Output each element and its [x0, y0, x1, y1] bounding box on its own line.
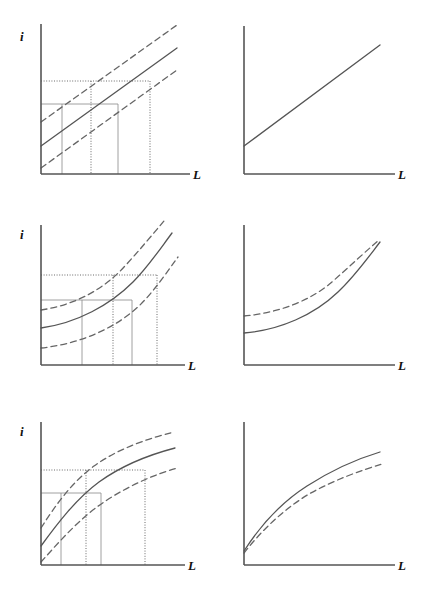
- series-lower-middle-left: [41, 257, 178, 348]
- panel-top-left: i L: [0, 0, 212, 197]
- y-axis-label-top-left: i: [20, 29, 24, 44]
- figure-panel-grid: i L L: [0, 0, 424, 590]
- axes-bottom-left: [41, 422, 185, 565]
- x-axis-label-bottom-left: L: [187, 558, 196, 573]
- x-axis-label-middle-right: L: [397, 358, 406, 373]
- guide-lines-top-left: [41, 81, 150, 174]
- axes-bottom-right: [244, 422, 395, 565]
- series-central-top-right: [244, 45, 380, 146]
- axes-top-left: [41, 24, 190, 174]
- x-axis-label-middle-left: L: [187, 358, 196, 373]
- panel-bottom-left: i L: [0, 394, 212, 590]
- panel-top-right: L: [212, 0, 424, 197]
- panel-middle-right: L: [212, 197, 424, 394]
- series-solid-bottom-right: [244, 452, 380, 551]
- series-dashed-bottom-right: [244, 464, 382, 553]
- series-lower-bottom-left: [41, 468, 178, 562]
- series-central-middle-left: [41, 233, 172, 328]
- series-upper-middle-left: [41, 221, 164, 310]
- guide-lines-bottom-left: [41, 470, 145, 565]
- series-lower-top-left: [41, 70, 177, 168]
- series-dashed-middle-right: [244, 240, 379, 316]
- x-axis-label-bottom-right: L: [397, 558, 406, 573]
- axes-top-right: [244, 26, 395, 174]
- series-upper-top-left: [41, 25, 177, 122]
- y-axis-label-bottom-left: i: [20, 424, 24, 439]
- x-axis-label-top-right: L: [397, 167, 406, 182]
- x-axis-label-top-left: L: [192, 167, 201, 182]
- series-solid-middle-right: [244, 242, 380, 333]
- panel-middle-left: i L: [0, 197, 212, 394]
- panel-bottom-right: L: [212, 394, 424, 590]
- y-axis-label-middle-left: i: [20, 227, 24, 242]
- series-central-top-left: [41, 48, 177, 146]
